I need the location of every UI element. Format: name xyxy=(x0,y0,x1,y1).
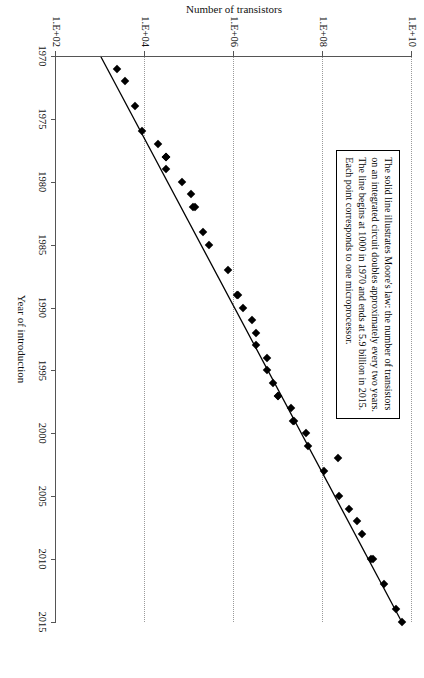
chart-root: 1970197519801985199019952000200520102015… xyxy=(0,0,424,678)
x-axis-title: Year of introduction xyxy=(16,56,28,622)
x-tick-2005 xyxy=(51,496,56,497)
x-tick-2015 xyxy=(51,622,56,623)
y-tick-label-1.E+02: 1.E+02 xyxy=(51,16,62,47)
y-tick-1.E+02 xyxy=(55,51,56,56)
y-axis-title-text: Number of transistors xyxy=(186,3,282,15)
annotation-line-1: The solid line illustrates Moore's law: … xyxy=(382,157,395,412)
x-tick-1970 xyxy=(51,56,56,57)
y-tick-1.E+08 xyxy=(322,51,323,56)
annotation-line-2: on an integrated circuit doubles approxi… xyxy=(369,157,382,412)
y-axis-title: Number of transistors xyxy=(56,0,412,18)
annotation-line-3: The line begins at 1000 in 1970 and ends… xyxy=(356,157,369,412)
x-tick-label-1975: 1975 xyxy=(37,108,48,129)
y-tick-1.E+06 xyxy=(233,51,234,56)
x-tick-label-1980: 1980 xyxy=(37,171,48,192)
y-tick-label-1.E+08: 1.E+08 xyxy=(318,16,329,47)
y-tick-1.E+04 xyxy=(144,51,145,56)
x-tick-label-2010: 2010 xyxy=(37,549,48,570)
x-tick-label-2005: 2005 xyxy=(37,486,48,507)
annotation-textbox: The solid line illustrates Moore's law: … xyxy=(336,150,400,419)
x-tick-1975 xyxy=(51,119,56,120)
y-tick-label-1.E+10: 1.E+10 xyxy=(407,16,418,47)
x-tick-1990 xyxy=(51,308,56,309)
x-tick-label-2000: 2000 xyxy=(37,423,48,444)
x-tick-label-2015: 2015 xyxy=(37,612,48,633)
y-axis-line xyxy=(56,56,412,57)
y-tick-1.E+10 xyxy=(411,51,412,56)
y-tick-label-1.E+06: 1.E+06 xyxy=(229,16,240,47)
annotation-line-4: Each point corresponds to one microproce… xyxy=(342,157,355,412)
x-tick-label-1990: 1990 xyxy=(37,297,48,318)
x-axis-line xyxy=(55,56,56,622)
x-tick-label-1970: 1970 xyxy=(37,46,48,67)
rotated-chart-wrapper: 1970197519801985199019952000200520102015… xyxy=(0,0,424,678)
x-tick-1980 xyxy=(51,182,56,183)
x-tick-2010 xyxy=(51,559,56,560)
x-tick-1985 xyxy=(51,245,56,246)
x-tick-1995 xyxy=(51,370,56,371)
x-tick-label-1995: 1995 xyxy=(37,360,48,381)
y-tick-label-1.E+04: 1.E+04 xyxy=(140,16,151,47)
x-tick-label-1985: 1985 xyxy=(37,234,48,255)
x-tick-2000 xyxy=(51,433,56,434)
